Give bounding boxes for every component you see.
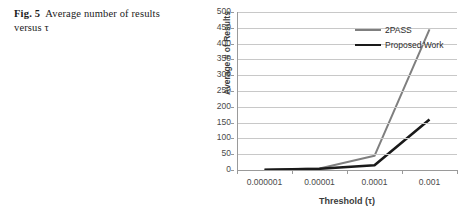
y-tick-mark xyxy=(231,59,234,60)
y-tick-label: 200 xyxy=(197,101,231,112)
y-tick-label: 100 xyxy=(197,132,231,143)
grid-line xyxy=(237,75,457,76)
y-tick-mark xyxy=(231,12,234,13)
y-tick-label: 300 xyxy=(197,69,231,80)
plot-area: 2PASSProposed Work xyxy=(237,12,457,170)
y-tick-mark xyxy=(231,75,234,76)
y-tick-mark xyxy=(231,107,234,108)
grid-line xyxy=(237,154,457,155)
x-tick-mark xyxy=(402,170,403,174)
y-tick-label: 500 xyxy=(197,6,231,17)
y-tick-mark xyxy=(231,44,234,45)
x-axis-title: Threshold (τ) xyxy=(237,196,457,206)
legend-label: Proposed Work xyxy=(385,40,443,50)
grid-line xyxy=(237,123,457,124)
y-axis-tick-labels: 050100150200250300350400450500 xyxy=(196,12,234,170)
y-tick-mark xyxy=(231,138,234,139)
y-tick-mark xyxy=(231,154,234,155)
figure-caption: Fig. 5Average number of results versus τ xyxy=(14,7,182,35)
grid-line xyxy=(237,138,457,139)
y-tick-mark xyxy=(231,91,234,92)
y-tick-label: 0 xyxy=(197,164,231,175)
x-tick-mark xyxy=(237,170,238,174)
grid-line xyxy=(237,91,457,92)
x-axis-tick-labels: 0.0000010.000010.00010.001 xyxy=(237,170,457,198)
x-tick-mark xyxy=(457,170,458,174)
legend-swatch xyxy=(355,29,381,31)
legend-item: 2PASS xyxy=(355,22,471,37)
x-tick-mark xyxy=(292,170,293,174)
legend-swatch xyxy=(355,44,381,46)
grid-line xyxy=(237,59,457,60)
x-tick-label: 0.000001 xyxy=(235,177,295,187)
legend-item: Proposed Work xyxy=(355,37,471,52)
grid-line xyxy=(237,12,457,13)
y-tick-label: 250 xyxy=(197,85,231,96)
y-tick-mark xyxy=(231,170,234,171)
y-tick-mark xyxy=(231,123,234,124)
y-tick-label: 50 xyxy=(197,148,231,159)
chart-legend: 2PASSProposed Work xyxy=(355,22,471,52)
figure-number: Fig. 5 xyxy=(14,8,40,19)
y-tick-label: 350 xyxy=(197,53,231,64)
x-tick-label: 0.001 xyxy=(400,177,460,187)
y-tick-label: 150 xyxy=(197,117,231,128)
y-axis-line xyxy=(237,12,238,170)
legend-label: 2PASS xyxy=(385,25,412,35)
grid-line xyxy=(237,107,457,108)
y-tick-label: 400 xyxy=(197,38,231,49)
y-tick-label: 450 xyxy=(197,22,231,33)
x-tick-label: 0.0001 xyxy=(345,177,405,187)
y-tick-mark xyxy=(231,28,234,29)
line-chart: Average # of Results 0501001502002503003… xyxy=(196,4,468,214)
x-tick-label: 0.00001 xyxy=(290,177,350,187)
x-tick-mark xyxy=(347,170,348,174)
